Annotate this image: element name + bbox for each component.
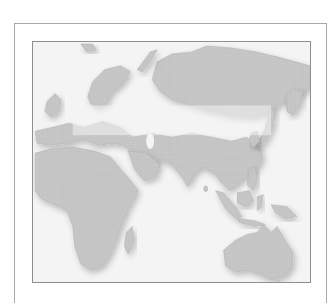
water-caspian xyxy=(146,133,154,149)
land-british-isles xyxy=(45,94,61,118)
map-canvas xyxy=(33,42,310,282)
land-novaya-zemlya xyxy=(137,50,157,72)
land-philippines xyxy=(247,167,257,191)
land-borneo xyxy=(237,191,253,207)
land-tasmania xyxy=(275,280,281,282)
map-frame xyxy=(32,41,311,283)
land-sri-lanka xyxy=(204,186,208,192)
land-madagascar xyxy=(124,226,134,254)
land-scandinavia xyxy=(88,66,131,108)
land-svalbard xyxy=(81,44,97,52)
land-new-guinea xyxy=(271,205,297,219)
land-java xyxy=(237,219,265,227)
land-africa xyxy=(35,147,138,270)
land-australia xyxy=(224,224,293,280)
haze-overlay xyxy=(73,105,271,135)
land-sulawesi xyxy=(257,195,263,211)
